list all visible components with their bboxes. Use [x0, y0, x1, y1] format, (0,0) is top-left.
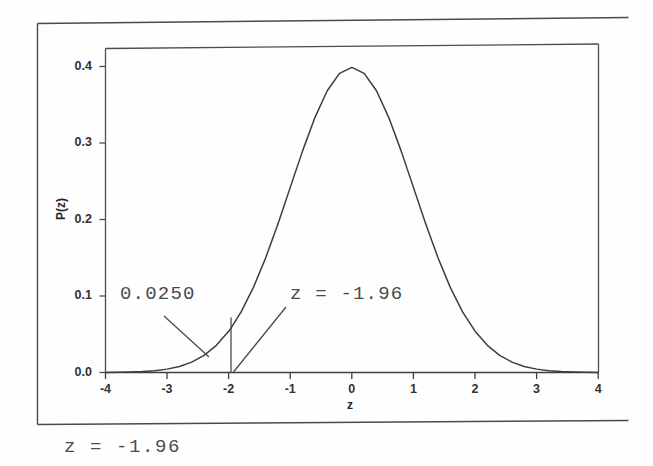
x-tick-label--1: -1	[277, 383, 303, 396]
x-axis-ticks	[106, 373, 599, 380]
annotation-tail-area: 0.0250	[120, 285, 196, 304]
critical-value-leader-line	[234, 307, 287, 372]
x-tick-label--3: -3	[154, 383, 180, 396]
x-tick-label-0: 0	[339, 383, 365, 396]
x-tick-label-1: 1	[400, 383, 426, 396]
y-tick-label-0.3: 0.3	[58, 136, 92, 149]
x-tick-label-3: 3	[524, 383, 550, 396]
figure-caption: z = -1.96	[64, 436, 181, 458]
plot-frame	[106, 44, 599, 373]
figure-root: 0.4 0.3 0.2 0.1 0.0 P(z) -4 -3 -2 -1 0 1…	[0, 0, 653, 466]
y-axis-ticks	[100, 67, 106, 373]
y-tick-label-0.1: 0.1	[58, 289, 92, 302]
x-tick-label--2: -2	[216, 383, 242, 396]
tail-area-leader-line	[164, 316, 209, 357]
chart-canvas	[0, 0, 653, 466]
x-tick-label-2: 2	[462, 383, 488, 396]
normal-distribution-curve	[106, 67, 599, 372]
y-axis-title: P(z)	[54, 185, 68, 233]
y-axis-title-wrap: P(z)	[52, 186, 70, 234]
x-axis-title: z	[347, 399, 353, 411]
annotation-critical-value: z = -1.96	[290, 285, 403, 304]
y-tick-label-0.4: 0.4	[58, 60, 92, 73]
x-tick-label--4: -4	[93, 383, 119, 396]
outer-page-border	[38, 18, 629, 425]
y-tick-label-0.0: 0.0	[58, 366, 92, 379]
x-tick-label-4: 4	[585, 383, 611, 396]
